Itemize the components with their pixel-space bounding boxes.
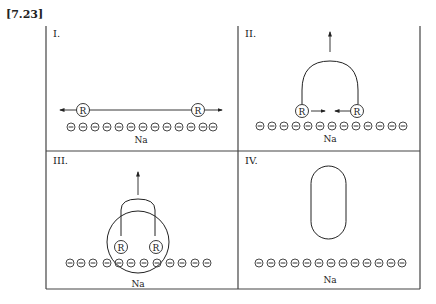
atom-r-left: R (115, 241, 128, 254)
panel-1: I. R R Na (53, 28, 222, 145)
negative-charges (256, 122, 407, 130)
atom-r-right: R (150, 241, 163, 254)
desorbed-molecule (311, 166, 346, 239)
surface-label: Na (323, 134, 337, 144)
surface-label: Na (323, 275, 337, 285)
svg-text:R: R (195, 106, 202, 116)
svg-text:R: R (118, 243, 125, 253)
panel-label: I. (53, 28, 60, 39)
svg-text:R: R (354, 107, 361, 117)
svg-text:R: R (299, 107, 306, 117)
surface-label: Na (134, 135, 148, 145)
atom-r-right: R (192, 104, 205, 117)
panel-2: II. R R Na (245, 28, 407, 144)
panel-label: III. (53, 155, 68, 166)
panel-4: IV. Na (245, 155, 406, 285)
surface-label: Na (131, 279, 145, 289)
atom-r-left: R (77, 104, 90, 117)
negative-charges (255, 259, 406, 267)
panel-grid (46, 26, 420, 289)
atom-r-left: R (296, 105, 309, 118)
svg-text:R: R (153, 243, 160, 253)
panel-label: IV. (245, 155, 258, 166)
reaction-diagram: I. R R Na II. R (0, 0, 436, 304)
svg-text:R: R (80, 106, 87, 116)
panel-3: III. R R Na (53, 155, 211, 289)
negative-charges (66, 259, 211, 267)
atom-r-right: R (351, 105, 364, 118)
panel-label: II. (245, 28, 256, 39)
negative-charges (67, 123, 217, 131)
